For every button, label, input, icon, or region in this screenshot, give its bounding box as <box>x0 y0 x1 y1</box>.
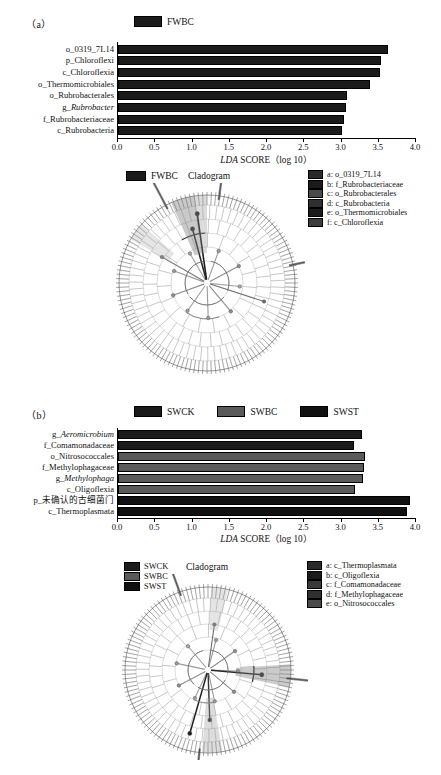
bar-row <box>118 485 416 494</box>
bar-row <box>118 45 416 54</box>
category-label: c_Chloroflexia <box>0 68 117 77</box>
key-legend-label: c: o_Rubrobacterales <box>327 189 396 198</box>
bar <box>118 496 410 505</box>
bar-row <box>118 91 416 100</box>
key-legend-item: e: o_Thermomicrobiales <box>308 208 407 217</box>
key-legend-item: a: c_Thermoplasmata <box>307 561 403 570</box>
bar-row <box>118 430 416 439</box>
bar-row <box>118 103 416 112</box>
key-legend-label: a: o_0319_7L14 <box>327 170 381 179</box>
legend-item-fwbc: FWBC <box>126 171 178 181</box>
axis-tick-label: 2.5 <box>298 142 309 152</box>
bar <box>118 115 344 124</box>
panel-a: （a） FWBC o_0319_7L14 p_Chloroflexi c_Chl… <box>0 0 441 165</box>
bar <box>118 68 380 77</box>
cladogram-a: FWBC Cladogram a: o_0319_7L14 b: f_Rubro… <box>0 165 441 380</box>
key-legend-item: e: o_Nitrosococcales <box>307 599 403 608</box>
key-legend-swatch <box>308 170 323 179</box>
key-legend-item: a: o_0319_7L14 <box>308 170 407 179</box>
key-legend-label: a: c_Thermoplasmata <box>326 561 397 570</box>
bar <box>118 80 370 89</box>
category-label: o_0319_7L14 <box>0 45 117 54</box>
axis-tick-label: 1.5 <box>223 142 234 152</box>
bar <box>118 474 363 483</box>
legend-label-swck: SWCK <box>144 562 168 571</box>
panel-b-tag: （b） <box>26 407 53 422</box>
panel-b-category-labels: g_Aeromicrobium f_Comamonadaceae o_Nitro… <box>0 428 117 518</box>
cladogram-a-canvas: a_Chloroflexif_Rubrobacteriaceae <box>104 183 310 379</box>
axis-tick-label: 0.5 <box>149 142 160 152</box>
category-label-italic: Aeromicrobium <box>61 429 114 439</box>
key-legend-label: d: c_Rubrobacteria <box>327 199 390 208</box>
legend-item-swbc: SWBC <box>217 406 277 417</box>
key-legend-label: d: f_Methylophagaceae <box>326 590 403 599</box>
category-label: f_Rubrobacteriaceae <box>0 115 117 124</box>
key-legend-swatch <box>308 208 323 217</box>
key-legend-swatch <box>308 189 323 198</box>
legend-swatch-fwbc <box>126 171 146 181</box>
key-legend-swatch <box>307 580 322 589</box>
key-legend-swatch <box>307 599 322 608</box>
key-legend-item: d: c_Rubrobacteria <box>308 199 407 208</box>
category-label: f_Methylophagaceae <box>0 463 117 472</box>
category-label: o_Rubrobacterales <box>0 91 117 100</box>
legend-swatch-swst <box>300 406 328 417</box>
panel-b-bars <box>118 428 416 518</box>
legend-label-fwbc: FWBC <box>151 171 178 181</box>
axis-tick-label: 2.0 <box>261 142 272 152</box>
axis-tick-label: 4.0 <box>410 142 421 152</box>
panel-a-tag: （a） <box>26 16 52 31</box>
key-legend-label: b: f_Rubrobacteriaceae <box>327 180 403 189</box>
axis-tick-label: 3.0 <box>335 142 346 152</box>
category-label: p_Chloroflexi <box>0 56 117 65</box>
panel-b-bar-legend: SWCK SWBC SWST <box>134 406 377 417</box>
key-legend-swatch <box>308 180 323 189</box>
bar-row <box>118 115 416 124</box>
bar <box>118 463 364 472</box>
axis-tick-label: 0.0 <box>112 142 123 152</box>
panel-b-xaxis-title: LDA SCORE（log 10） <box>117 531 415 545</box>
xaxis-title-italic: LDA <box>220 155 238 165</box>
category-label: g_Aeromicrobium <box>0 430 117 439</box>
key-legend-swatch <box>307 561 322 570</box>
category-label: o_Nitrosococcales <box>0 452 117 461</box>
cladogram-b-key-legend: a: c_Thermoplasmata b: c_Oligoflexia c: … <box>307 561 403 608</box>
legend-label-fwbc: FWBC <box>167 17 194 27</box>
key-legend-item: f: c_Chloroflexia <box>308 218 407 227</box>
panel-a-category-labels: o_0319_7L14 p_Chloroflexi c_Chloroflexia… <box>0 42 117 138</box>
category-label: f_Comamonadaceae <box>0 441 117 450</box>
legend-item-fwbc: FWBC <box>134 16 194 27</box>
panel-a-bars <box>118 42 416 138</box>
bar-row <box>118 463 416 472</box>
bar-row <box>118 496 416 505</box>
bar <box>118 507 407 516</box>
xaxis-title-italic: LDA <box>220 534 238 544</box>
bar-row <box>118 452 416 461</box>
bar <box>118 126 342 135</box>
category-label: o_Thermomicrobiales <box>0 80 117 89</box>
key-legend-label: e: o_Thermomicrobiales <box>327 208 407 217</box>
bar <box>118 45 388 54</box>
cladogram-b-title: Cladogram <box>186 562 228 572</box>
cladogram-b-canvas: c_Thermoplasmatao_Nitrosococcales <box>108 574 308 760</box>
key-legend-label: e: o_Nitrosococcales <box>326 599 394 608</box>
bar <box>118 430 362 439</box>
bar-row <box>118 441 416 450</box>
cladogram-a-key-legend: a: o_0319_7L14 b: f_Rubrobacteriaceae c:… <box>308 170 407 227</box>
bar <box>118 103 346 112</box>
bar-row <box>118 80 416 89</box>
lefse-figure: （a） FWBC o_0319_7L14 p_Chloroflexi c_Chl… <box>0 0 441 775</box>
category-label: p_未确认的古细菌门 <box>0 496 117 505</box>
axis-tick-label: 3.5 <box>372 142 383 152</box>
bar <box>118 56 381 65</box>
key-legend-swatch <box>307 571 322 580</box>
legend-label-swst: SWST <box>333 407 358 417</box>
bar <box>118 452 365 461</box>
bar-row <box>118 68 416 77</box>
key-legend-label: c: f_Comamonadaceae <box>326 580 401 589</box>
category-label: c_Thermoplasmata <box>0 507 117 516</box>
key-legend-swatch <box>308 199 323 208</box>
key-legend-item: c: o_Rubrobacterales <box>308 189 407 198</box>
bar <box>118 485 355 494</box>
category-label-italic: Rubrobacter <box>71 102 114 112</box>
